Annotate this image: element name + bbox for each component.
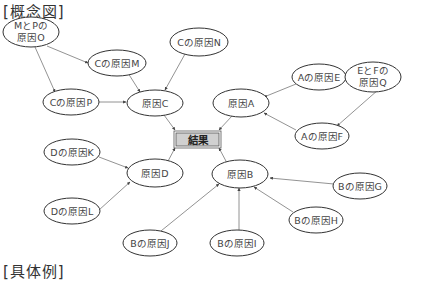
- node-label: 原因Q: [359, 77, 386, 88]
- node-label: Cの原因P: [50, 97, 93, 108]
- node-label: MとPの: [14, 20, 48, 31]
- edge-l-d: [99, 182, 130, 210]
- node-label: Bの原因J: [130, 238, 169, 249]
- node-label: Bの原因I: [217, 238, 256, 249]
- node-label: 原因B: [227, 169, 254, 180]
- node-label: Cの原因M: [95, 58, 140, 69]
- node-cause-b: 原因B: [212, 160, 268, 188]
- concept-diagram: 結果 MとPの 原因O Cの原因M Cの原因N Cの原因P 原因C 原因A: [0, 0, 429, 283]
- node-label: 原因D: [141, 168, 168, 179]
- node-cause-a: 原因A: [213, 89, 269, 117]
- edge-b-result: [219, 148, 227, 163]
- edge-f-a: [264, 113, 296, 130]
- node-label: Dの原因K: [50, 147, 94, 158]
- edge-q-f: [337, 90, 378, 126]
- edge-h-b: [254, 187, 293, 212]
- edge-m-c: [128, 73, 140, 92]
- result-label: 結果: [188, 134, 209, 146]
- edge-o-p: [35, 47, 55, 92]
- edge-c-result: [164, 115, 175, 130]
- edge-k-d: [99, 157, 128, 168]
- node-label: Aの原因F: [301, 131, 343, 142]
- result-box: 結果: [174, 131, 221, 148]
- edge-j-b: [156, 184, 219, 235]
- node-cause-k: Dの原因K: [44, 139, 100, 165]
- node-label: EとFの: [357, 65, 388, 76]
- node-label: 原因C: [142, 98, 169, 109]
- node-cause-i: Bの原因I: [210, 230, 264, 256]
- edge-o-m: [47, 46, 88, 63]
- node-cause-j: Bの原因J: [123, 230, 177, 256]
- edge-g-b: [270, 178, 334, 184]
- node-cause-o: MとPの 原因O: [3, 17, 59, 47]
- node-cause-p: Cの原因P: [43, 89, 99, 115]
- node-cause-m: Cの原因M: [88, 50, 146, 76]
- node-label: 原因O: [17, 32, 44, 43]
- edge-a-result: [219, 116, 232, 130]
- node-cause-g: Bの原因G: [333, 173, 387, 199]
- edge-n-c: [165, 54, 185, 90]
- node-label: Bの原因G: [338, 181, 382, 192]
- edge-e-a: [264, 84, 296, 97]
- node-label: Bの原因H: [294, 215, 338, 226]
- node-cause-e: Aの原因E: [292, 64, 346, 90]
- node-cause-q: EとFの 原因Q: [345, 62, 401, 92]
- node-cause-h: Bの原因H: [289, 207, 343, 233]
- node-label: Cの原因N: [177, 37, 221, 48]
- node-label: 原因A: [228, 98, 255, 109]
- node-cause-c: 原因C: [127, 90, 183, 116]
- node-cause-n: Cの原因N: [170, 28, 228, 56]
- node-label: Aの原因E: [298, 72, 341, 83]
- node-cause-l: Dの原因L: [44, 198, 100, 224]
- node-label: Dの原因L: [51, 206, 94, 217]
- node-cause-f: Aの原因F: [295, 123, 349, 149]
- node-cause-d: 原因D: [127, 159, 183, 187]
